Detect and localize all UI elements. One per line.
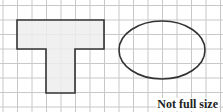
grid-diagram [0, 0, 223, 112]
t-shape [17, 20, 104, 93]
not-full-size-caption: Not full size [156, 98, 219, 111]
grid-lines [0, 0, 223, 112]
